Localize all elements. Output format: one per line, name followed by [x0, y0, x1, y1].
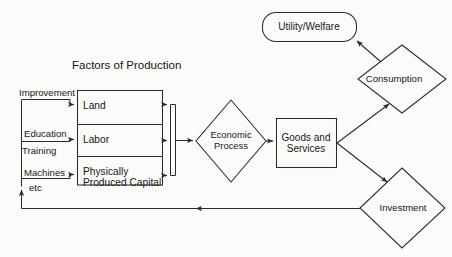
- input-label-machines: Machines: [24, 168, 65, 179]
- factor-cell-labor: Labor: [83, 134, 109, 145]
- node-label-investment: Investment: [380, 203, 427, 214]
- input-label-improvement: Improvement: [19, 88, 75, 99]
- factor-cell-physically-produced-capital: Physically Produced Capital: [83, 166, 161, 189]
- diagram-canvas: Factors of Production Improvement Educat…: [0, 0, 452, 257]
- node-label-economic-process: Economic Process: [210, 130, 251, 151]
- arrow-goods-to-investment: [337, 143, 387, 182]
- factor-cell-land: Land: [83, 100, 106, 111]
- node-label-consumption: Consumption: [366, 74, 423, 85]
- page-title: Factors of Production: [72, 59, 181, 72]
- input-label-etc: etc: [29, 183, 42, 194]
- arrow-goods-to-consumption: [337, 104, 389, 143]
- arrow-consumption-to-utility: [357, 41, 381, 62]
- investment-feedback-loop: [22, 190, 361, 209]
- factors-collector-bracket: [163, 105, 194, 176]
- input-label-education: Education: [24, 129, 67, 140]
- node-label-goods-and-services: Goods and Services: [282, 132, 331, 154]
- node-label-utility-welfare: Utility/Welfare: [278, 21, 340, 32]
- input-label-training: Training: [22, 146, 56, 157]
